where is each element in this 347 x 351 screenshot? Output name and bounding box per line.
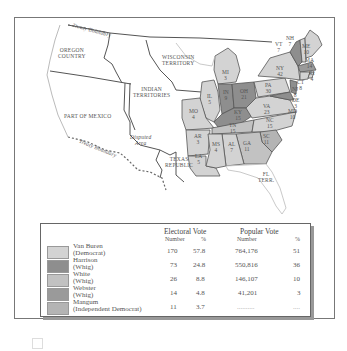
state-label-mo: MO4	[189, 108, 198, 120]
ev-percent: 8.8	[196, 275, 205, 283]
legend-row-mangum: Mangum(Independent Democrat) 11 3.7 ....…	[41, 299, 310, 315]
col-ev-number: Number	[165, 236, 185, 242]
pv-percent: 3	[297, 289, 301, 297]
label-texas-republic: TEXASREPUBLIC	[165, 156, 193, 168]
state-label-md: MD10	[288, 108, 297, 120]
electoral-vote-header: Electoral Vote	[164, 227, 206, 236]
state-label-ky: KY15	[234, 109, 242, 121]
fl-territory	[226, 164, 286, 214]
candidate-name: Harrison(Whig)	[73, 257, 98, 271]
popular-vote-header: Popular Vote	[240, 227, 279, 236]
state-label-il: IL5	[207, 93, 212, 105]
label-fl-terr: FLTERR.	[258, 171, 274, 183]
ev-number: 11	[170, 303, 177, 311]
ev-percent: 3.7	[196, 303, 205, 311]
ev-percent: 4.8	[196, 289, 205, 297]
pv-number: 41,201	[238, 289, 257, 297]
pv-percent: 10	[293, 275, 300, 283]
ev-number: 170	[167, 247, 178, 255]
state-label-nh: NH7	[286, 35, 294, 47]
pv-percent: 36	[293, 261, 300, 269]
candidate-name: Mangum(Independent Democrat)	[73, 299, 142, 313]
label-part-of-mexico: PART OF MEXICO	[64, 113, 111, 119]
state-label-ny: NY42	[276, 65, 284, 77]
pv-number: 550,816	[235, 261, 258, 269]
pv-number: 146,107	[235, 275, 258, 283]
state-label-ri: RI4	[309, 70, 315, 82]
pv-number: 764,176	[235, 247, 258, 255]
col-pv-number: Number	[237, 236, 257, 242]
label-wisconsin-territory: WISCONSINTERRITORY	[162, 54, 194, 66]
state-label-sc: SC11	[263, 133, 270, 145]
pv-percent: 51	[293, 247, 300, 255]
col-ev-percent: %	[201, 236, 206, 242]
pv-number: ..........	[237, 303, 255, 311]
state-label-al: AL7	[228, 141, 235, 153]
ev-percent: 57.8	[193, 247, 205, 255]
state-label-ma: MA14	[305, 57, 314, 69]
state-label-nc: NC15	[266, 117, 274, 129]
state-label-tn: TN15	[229, 122, 236, 134]
state-label-oh: OH21	[240, 88, 248, 100]
state-label-la: LA5	[195, 153, 202, 165]
state-label-ga: GA11	[243, 140, 251, 152]
corner-mark	[32, 338, 43, 349]
legend-table: Electoral Vote Popular Vote Number % Num…	[40, 223, 311, 317]
state-label-va: VA23	[263, 103, 270, 115]
candidate-name: Webster(Whig)	[73, 285, 96, 299]
ev-number: 14	[170, 289, 177, 297]
label-oregon-country: OREGONCOUNTRY	[58, 47, 86, 59]
candidate-name: Van Buren(Democrat)	[73, 243, 105, 257]
label-disputed-area: DisputedArea	[130, 134, 151, 146]
state-label-ms: MS4	[212, 141, 220, 153]
pv-percent: ....	[293, 303, 300, 311]
state-label-vt: VT7	[275, 41, 282, 53]
label-indian-territories: INDIANTERRITORIES	[133, 86, 170, 98]
state-label-pa: PA30	[265, 82, 272, 94]
state-label-in: IN9	[223, 89, 229, 101]
ev-number: 73	[170, 261, 177, 269]
col-pv-percent: %	[295, 236, 300, 242]
state-label-mi: MI3	[222, 69, 229, 81]
state-label-ar: AR3	[194, 133, 202, 145]
swatch-mangum	[47, 302, 69, 315]
ev-percent: 24.8	[193, 261, 205, 269]
ev-number: 26	[170, 275, 177, 283]
state-label-me: ME10	[302, 43, 310, 55]
candidate-name: White(Whig)	[73, 271, 93, 285]
